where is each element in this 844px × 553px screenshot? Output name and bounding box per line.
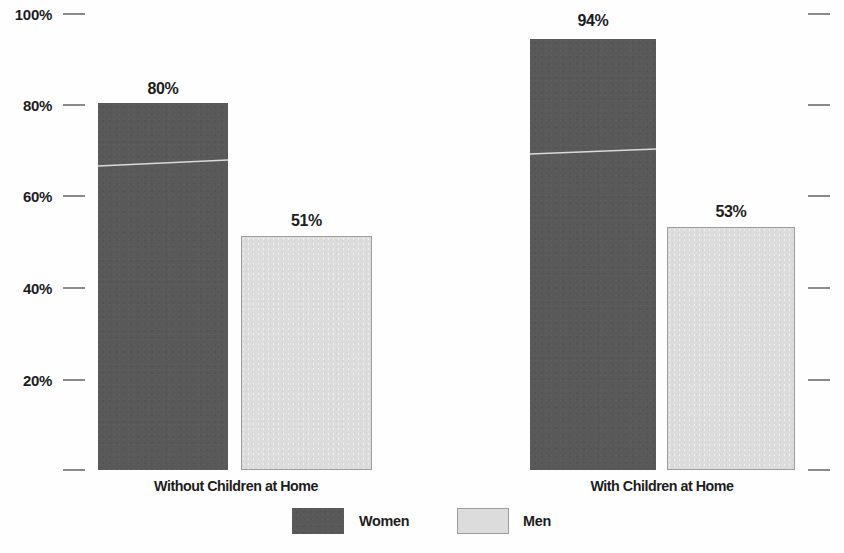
bar-value-women-without-children: 80% [98, 80, 228, 98]
chart-legend: Women Men [0, 508, 844, 534]
bar-value-women-with-children: 94% [530, 12, 656, 30]
bar-women-with-children [530, 39, 656, 470]
legend-item-women[interactable]: Women [292, 508, 411, 534]
legend-label-women: Women [359, 512, 409, 530]
legend-label-men: Men [523, 512, 551, 530]
legend-swatch-men-icon [457, 508, 509, 534]
bar-men-without-children [241, 236, 372, 470]
bar-value-men-with-children: 53% [667, 203, 795, 221]
legend-swatch-women-icon [292, 508, 344, 534]
group-label-without-children: Without Children at Home [100, 477, 372, 495]
plot-area: 80% 51% Without Children at Home 94% 53%… [0, 0, 844, 553]
bar-value-men-without-children: 51% [241, 212, 372, 230]
bar-chart: 100% 80% 60% 40% 20% 80% 51% Without Chi… [0, 0, 844, 553]
legend-item-men[interactable]: Men [457, 508, 552, 534]
bar-women-without-children [98, 103, 228, 470]
group-label-with-children: With Children at Home [526, 477, 798, 495]
bar-men-with-children [667, 227, 795, 470]
